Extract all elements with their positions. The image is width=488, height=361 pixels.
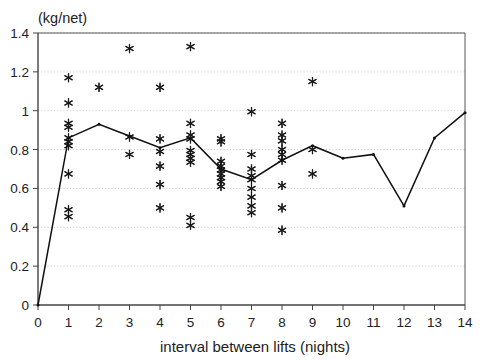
chart-figure: 01234567891011121314 00.20.40.60.811.21.…	[0, 0, 488, 361]
y-tick-label: 1.2	[10, 65, 29, 80]
mean-line-vertex	[403, 204, 406, 207]
mean-line-vertex	[98, 123, 101, 126]
mean-line-vertex	[189, 136, 192, 139]
mean-line-vertex	[433, 136, 436, 139]
x-tick-label: 4	[156, 315, 164, 330]
y-tick-label: 0.8	[10, 143, 29, 158]
y-tick-label: 0	[21, 298, 29, 313]
mean-line-vertex	[128, 134, 131, 137]
mean-line-vertex	[464, 111, 467, 114]
x-tick-label: 13	[427, 315, 442, 330]
x-axis-label: interval between lifts (nights)	[160, 338, 350, 355]
mean-line-vertex	[281, 159, 284, 162]
mean-line-vertex	[250, 178, 253, 181]
x-tick-label: 6	[217, 315, 225, 330]
x-tick-label: 8	[278, 315, 286, 330]
x-tick-label: 12	[396, 315, 411, 330]
mean-line-vertex	[37, 304, 40, 307]
y-tick-label: 0.2	[10, 259, 29, 274]
x-tick-label: 2	[95, 315, 103, 330]
y-tick-label: 1	[21, 104, 29, 119]
mean-line-vertex	[342, 157, 345, 160]
x-tick-label: 5	[187, 315, 195, 330]
mean-line-vertex	[159, 146, 162, 149]
x-tick-label: 9	[309, 315, 317, 330]
x-tick-label: 7	[248, 315, 256, 330]
x-tick-label: 3	[126, 315, 134, 330]
scatter-line-chart: 01234567891011121314 00.20.40.60.811.21.…	[0, 0, 488, 361]
x-tick-label: 10	[335, 315, 350, 330]
y-tick-label: 1.4	[10, 26, 29, 41]
y-tick-label: 0.6	[10, 181, 29, 196]
x-tick-label: 14	[457, 315, 473, 330]
mean-line-vertex	[311, 144, 314, 147]
x-tick-label: 11	[366, 315, 380, 330]
y-tick-label: 0.4	[10, 220, 29, 235]
mean-line-vertex	[67, 136, 70, 139]
x-tick-label: 1	[65, 315, 73, 330]
y-axis-unit-label: (kg/net)	[38, 10, 87, 26]
mean-line-vertex	[220, 168, 223, 171]
mean-line-vertex	[372, 153, 375, 156]
x-tick-label: 0	[34, 315, 42, 330]
